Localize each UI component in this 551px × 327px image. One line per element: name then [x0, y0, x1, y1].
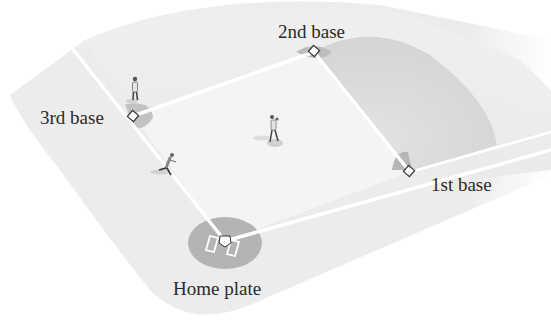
second-base-label: 2nd base	[278, 22, 345, 41]
third-base-label: 3rd base	[40, 108, 104, 127]
baseball-diamond-diagram: 2nd base 3rd base 1st base Home plate	[0, 0, 551, 327]
home-plate-label: Home plate	[173, 279, 261, 298]
first-base-label: 1st base	[431, 175, 492, 194]
field-graphic	[0, 0, 551, 327]
